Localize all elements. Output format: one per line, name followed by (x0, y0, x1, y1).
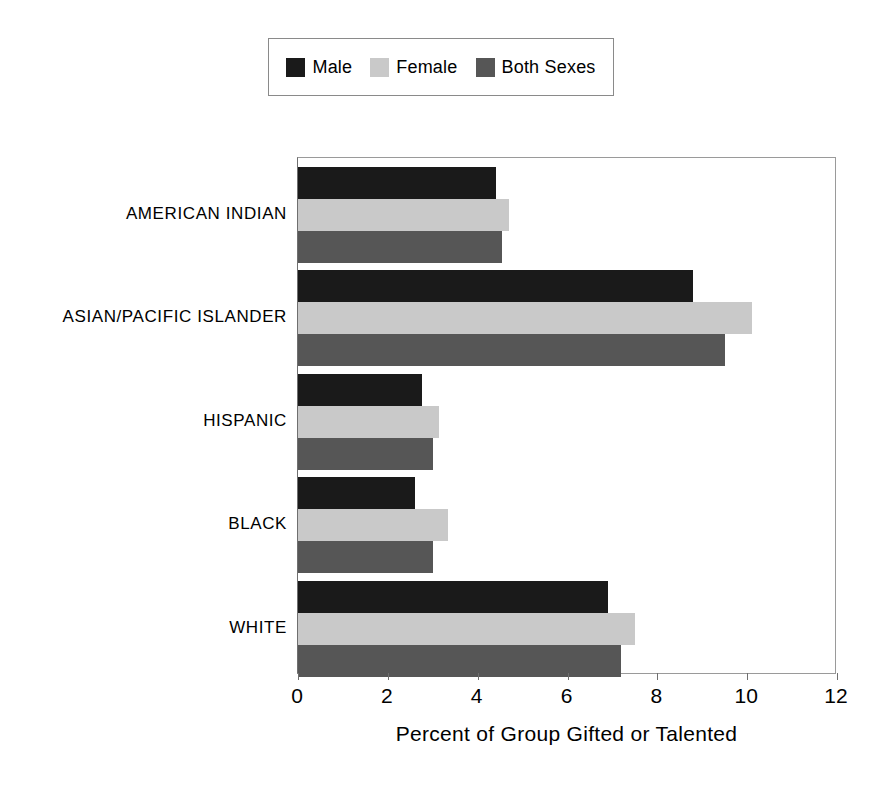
bar (298, 374, 422, 406)
y-axis-category-label: WHITE (0, 618, 287, 638)
bar (298, 541, 433, 573)
x-axis-tick-label: 10 (734, 684, 757, 708)
x-axis-tick-label: 12 (824, 684, 847, 708)
y-axis-category-label: BLACK (0, 514, 287, 534)
x-axis-tick (747, 673, 748, 680)
x-axis-tick (837, 673, 838, 680)
chart-plot-area (298, 158, 835, 673)
bar (298, 334, 725, 366)
x-axis-tick (657, 673, 658, 680)
x-axis-tick (478, 673, 479, 680)
x-axis-tick-label: 4 (471, 684, 483, 708)
y-axis-category-label: HISPANIC (0, 411, 287, 431)
bar (298, 613, 635, 645)
x-axis-tick (298, 673, 299, 680)
x-axis-tick-label: 6 (561, 684, 573, 708)
chart-plot-frame (297, 157, 836, 674)
bar (298, 645, 621, 677)
bar (298, 231, 502, 263)
x-axis-tick (388, 673, 389, 680)
y-axis-category-label: AMERICAN INDIAN (0, 204, 287, 224)
bar (298, 581, 608, 613)
bar (298, 270, 693, 302)
bar (298, 477, 415, 509)
bar (298, 167, 496, 199)
bar (298, 438, 433, 470)
x-axis-tick-label: 2 (381, 684, 393, 708)
y-axis-category-label: ASIAN/PACIFIC ISLANDER (0, 307, 287, 327)
x-axis-title: Percent of Group Gifted or Talented (297, 722, 836, 746)
x-axis-tick-label: 0 (291, 684, 303, 708)
bar (298, 302, 752, 334)
x-axis-tick (568, 673, 569, 680)
bar (298, 509, 448, 541)
bar (298, 199, 509, 231)
bar (298, 406, 439, 438)
x-axis-tick-label: 8 (650, 684, 662, 708)
